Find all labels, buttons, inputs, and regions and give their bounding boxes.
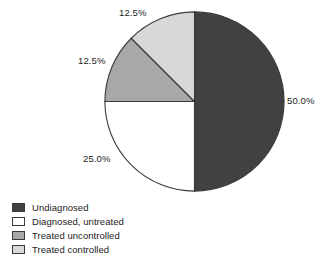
legend-swatch-icon-undiagnosed	[12, 203, 25, 212]
legend-label-undiagnosed: Undiagnosed	[32, 202, 89, 213]
legend-label-treated-controlled: Treated controlled	[32, 244, 109, 255]
legend-item-diagnosed-untreated[interactable]: Diagnosed, untreated	[12, 214, 212, 228]
legend-item-treated-uncontrolled[interactable]: Treated uncontrolled	[12, 228, 212, 242]
legend-swatch-icon-diagnosed-untreated	[12, 217, 25, 226]
pie-chart-figure: 50.0% 25.0% 12.5% 12.5% Undiagnosed Diag…	[0, 0, 322, 268]
pie-value-label-undiagnosed: 50.0%	[287, 95, 314, 106]
pie-chart-plot-area	[104, 11, 285, 192]
legend-label-diagnosed-untreated: Diagnosed, untreated	[32, 216, 124, 227]
legend-item-undiagnosed[interactable]: Undiagnosed	[12, 200, 212, 214]
pie-value-label-treated-uncontrolled: 12.5%	[78, 55, 105, 66]
legend-item-treated-controlled[interactable]: Treated controlled	[12, 242, 212, 256]
legend-swatch-icon-treated-controlled	[12, 245, 25, 254]
pie-slice-undiagnosed[interactable]	[195, 12, 285, 191]
legend-swatch-icon-treated-uncontrolled	[12, 231, 25, 240]
pie-slice-diagnosed-untreated[interactable]	[105, 102, 195, 192]
pie-value-label-diagnosed-untreated: 25.0%	[83, 153, 110, 164]
chart-legend: Undiagnosed Diagnosed, untreated Treated…	[12, 200, 212, 256]
pie-svg	[104, 11, 285, 192]
pie-value-label-treated-controlled: 12.5%	[119, 7, 146, 18]
legend-label-treated-uncontrolled: Treated uncontrolled	[32, 230, 120, 241]
